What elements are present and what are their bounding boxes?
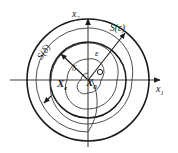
- x1-axis-label: x1: [156, 84, 164, 96]
- figure-canvas: x2 x1 S(ε) S(δ) ε δ Xe X0: [0, 0, 178, 153]
- equilibrium-point-label: X0: [86, 77, 97, 91]
- equilibrium-point-marker: [97, 69, 102, 74]
- x2-axis-label: x2: [72, 9, 80, 21]
- epsilon-label: ε: [95, 49, 99, 58]
- initial-point-label: Xe: [57, 78, 67, 92]
- trajectory-direction-arrow: [44, 96, 51, 103]
- delta-label: δ: [72, 64, 76, 73]
- outer-circle-label: S(ε): [110, 24, 125, 34]
